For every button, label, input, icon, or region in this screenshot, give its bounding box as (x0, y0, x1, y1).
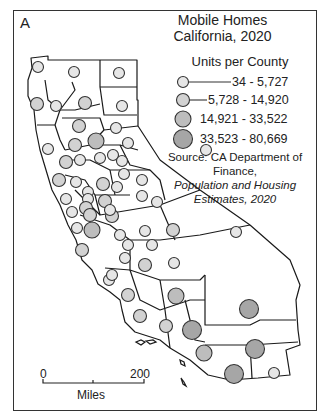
county-symbol (169, 258, 180, 269)
county-symbol (60, 156, 73, 169)
county-symbol (111, 123, 122, 134)
channel-island (181, 378, 186, 386)
county-symbol (139, 259, 152, 272)
legend-title: Units per County (170, 54, 310, 69)
county-symbol (107, 270, 118, 281)
county-symbol (147, 240, 158, 251)
county-symbol (69, 139, 82, 152)
county-symbol (134, 310, 147, 323)
county-symbol (140, 226, 151, 237)
county-symbol (71, 177, 82, 188)
county-symbol (79, 97, 92, 110)
county-symbol (73, 120, 86, 133)
county-symbol (67, 207, 78, 218)
county-symbol (168, 288, 184, 304)
county-symbol (183, 321, 202, 340)
county-symbol (167, 224, 180, 237)
county-symbol (69, 67, 80, 78)
scale-label-max: 200 (130, 367, 150, 381)
legend-label: 33,523 - 80,669 (200, 132, 288, 146)
county-symbol (117, 156, 128, 167)
county-symbol (43, 144, 54, 155)
county-symbol (115, 230, 126, 241)
channel-island (146, 340, 156, 344)
source-title-line-1: Population and Housing (150, 178, 320, 192)
county-symbol (72, 223, 83, 234)
county-symbol (97, 178, 110, 191)
county-symbol (119, 169, 130, 180)
channel-island (136, 340, 145, 345)
legend-symbol (177, 94, 190, 107)
county-symbol (137, 191, 148, 202)
county-symbol (137, 175, 148, 186)
county-symbol (112, 182, 123, 193)
county-symbol (269, 368, 280, 379)
county-symbol (88, 133, 104, 149)
legend-item-4: 33,523 - 80,669 (200, 128, 288, 150)
county-symbol (117, 101, 128, 112)
county-symbol (160, 320, 173, 333)
county-symbol (51, 101, 62, 112)
legend-label: 34 - 5,727 (232, 75, 288, 89)
county-symbol (123, 138, 134, 149)
county-symbol (246, 340, 265, 359)
legend-label: 5,728 - 14,920 (208, 93, 289, 107)
legend-label: 14,921 - 33,522 (200, 112, 288, 126)
legend-symbol (178, 77, 189, 88)
legend-symbol (175, 111, 191, 127)
legend-symbol (174, 130, 193, 149)
county-symbol (122, 289, 135, 302)
channel-island (180, 360, 185, 366)
legend-item-3: 14,921 - 33,522 (200, 108, 288, 130)
county-symbol (95, 153, 106, 164)
county-symbol (105, 205, 116, 216)
county-symbol (231, 227, 242, 238)
scale-label-zero: 0 (40, 367, 47, 381)
county-symbol (53, 174, 66, 187)
county-symbol (123, 240, 134, 251)
county-symbol (84, 209, 97, 222)
county-symbol (75, 155, 86, 166)
county-symbol (114, 68, 125, 79)
scale-bar (43, 379, 144, 383)
county-symbol (76, 244, 89, 257)
source-note: Source: CA Department of Finance, Popula… (150, 150, 320, 206)
county-symbol (31, 98, 44, 111)
county-symbol (33, 62, 44, 73)
county-symbol (84, 222, 100, 238)
source-prefix: Source: CA Department of Finance, (150, 150, 320, 178)
county-symbol (196, 345, 212, 361)
county-symbol (225, 365, 244, 384)
source-title-line-2: Estimates, 2020 (150, 192, 320, 206)
scale-unit-label: Miles (77, 388, 105, 402)
county-symbol (61, 194, 72, 205)
county-symbol (120, 253, 131, 264)
county-symbol (240, 300, 259, 319)
